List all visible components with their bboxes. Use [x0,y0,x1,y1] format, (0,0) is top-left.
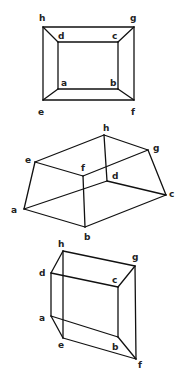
edge-gc [118,27,134,42]
edge-eh [35,135,104,162]
edge-hd [51,251,63,273]
edge-bc [85,195,166,227]
edge-hd [104,135,107,181]
vertex-label-f: f [131,107,135,117]
edge-bf [118,337,136,359]
vertex-label-d: d [58,31,64,41]
vertex-label-b: b [84,232,91,242]
vertex-label-e: e [38,107,44,117]
edge-fb [83,176,85,227]
edge-cd [107,181,166,195]
edge-ef [63,338,136,359]
edge-ab [24,209,85,227]
figure-2-frustum-oblique: hgefdcab [11,123,174,242]
vertex-label-h: h [103,123,109,133]
vertex-label-b: b [110,78,117,88]
vertex-label-g: g [132,252,138,262]
vertex-label-a: a [61,78,67,88]
vertex-label-b: b [112,342,119,352]
vertex-label-d: d [39,268,45,278]
geometry-diagram: hgdcabef hgefdcab hgdcaebf [0,0,184,382]
edge-gf [135,266,136,359]
vertex-label-a: a [39,313,45,323]
edge-gc [118,266,135,287]
edge-hg [63,251,135,266]
vertex-label-h: h [39,13,45,23]
edge-ea [24,162,35,209]
figure-3-prism-side-view: hgdcaebf [39,239,142,370]
edge-hg [104,135,148,150]
edge-hd [43,27,58,42]
vertex-label-h: h [58,239,64,249]
edge-fe [35,162,83,176]
vertex-label-c: c [169,189,174,199]
vertex-label-g: g [153,143,159,153]
vertex-label-g: g [130,13,136,23]
vertex-label-e: e [58,340,64,350]
edge-fb [118,89,134,100]
vertex-label-c: c [112,275,117,285]
vertex-label-c: c [112,31,117,41]
vertex-label-f: f [138,360,142,370]
edge-ea [43,89,58,100]
vertex-label-a: a [11,205,17,215]
vertex-label-f: f [81,163,85,173]
edge-dc [51,273,118,287]
edge-da [24,181,107,209]
edge-gc [148,150,166,195]
vertex-label-e: e [25,155,31,165]
vertex-label-d: d [112,171,118,181]
figure-1-frustum-top-view: hgdcabef [38,13,136,117]
